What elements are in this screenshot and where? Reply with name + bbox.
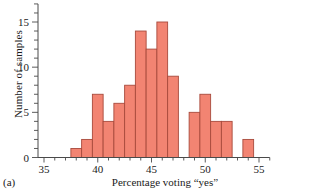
- histogram-plot: 3540455055051015: [0, 0, 315, 196]
- y-tick-label: 5: [24, 106, 30, 118]
- histogram-bar: [114, 103, 125, 157]
- histogram-bar: [211, 121, 222, 157]
- histogram-bar: [71, 148, 82, 157]
- histogram-bar: [243, 139, 254, 157]
- y-axis-title: Number of samples: [12, 4, 24, 144]
- x-tick-label: 50: [200, 163, 212, 175]
- histogram-bar: [146, 49, 157, 157]
- x-axis-title: Percentage voting “yes”: [60, 176, 270, 188]
- histogram-bar: [168, 76, 179, 157]
- panel-caption: (a): [3, 176, 15, 188]
- bar-group: [71, 22, 254, 158]
- x-tick-label: 55: [254, 163, 266, 175]
- y-tick-label: 0: [24, 152, 30, 164]
- histogram-bar: [125, 85, 136, 157]
- x-tick-label: 40: [92, 163, 104, 175]
- histogram-bar: [103, 121, 114, 157]
- x-tick-label: 45: [146, 163, 158, 175]
- histogram-figure: 3540455055051015 Number of samples Perce…: [0, 0, 315, 196]
- x-tick-label: 35: [39, 163, 51, 175]
- histogram-bar: [82, 139, 93, 157]
- histogram-bar: [221, 121, 232, 157]
- histogram-bar: [135, 31, 146, 157]
- histogram-bar: [92, 94, 103, 157]
- x-tick-label-group: 3540455055: [39, 163, 266, 175]
- histogram-bar: [189, 112, 200, 157]
- histogram-bar: [200, 94, 211, 157]
- histogram-bar: [157, 22, 168, 158]
